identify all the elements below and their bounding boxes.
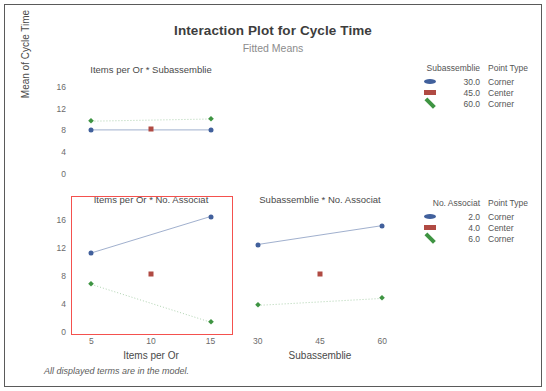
legend-point-type: Corner: [488, 212, 536, 222]
legend-header-no-associat: No. AssociatPoint Type: [424, 198, 536, 208]
y-axis-label: Mean of Cycle Time: [20, 0, 31, 124]
legend-marker-wrap: [424, 236, 436, 240]
x-tick-items-associat-10: 10: [136, 336, 166, 346]
panel-items-associat: Items per Or * No. Associat: [70, 192, 232, 332]
data-point: [89, 127, 94, 132]
legend-value: 30.0: [436, 77, 488, 87]
diamond-marker: [424, 233, 436, 245]
x-tick-items-associat-5: 5: [76, 336, 106, 346]
x-tick-subassemblie-associat-45: 45: [305, 336, 335, 346]
legend-marker-wrap: [424, 90, 436, 95]
legend-value: 6.0: [436, 234, 488, 244]
legend-header-factor-no-associat: No. Associat: [424, 198, 488, 208]
y-tick-items-associat-12: 12: [44, 243, 66, 253]
y-tick-items-associat-16: 16: [44, 215, 66, 225]
diamond-marker: [424, 98, 436, 110]
y-tick-items-subassemblie-0: 0: [44, 169, 66, 179]
plot-area-subassemblie-associat: [239, 206, 401, 332]
legend-point-type: Corner: [488, 77, 536, 87]
legend-item-no-associat-0[interactable]: 2.0Corner: [424, 211, 536, 222]
circle-marker: [424, 214, 436, 219]
y-tick-items-subassemblie-12: 12: [44, 104, 66, 114]
x-axis-label-items-associat: Items per Or: [71, 350, 231, 361]
legend-item-subassemblie-1[interactable]: 45.0Center: [424, 87, 536, 98]
chart-surface: Interaction Plot for Cycle Time Fitted M…: [6, 6, 540, 385]
y-tick-items-subassemblie-8: 8: [44, 125, 66, 135]
y-tick-items-associat-8: 8: [44, 271, 66, 281]
line-2.0: [91, 217, 210, 253]
window-frame: Interaction Plot for Cycle Time Fitted M…: [4, 4, 542, 387]
chart-title: Interaction Plot for Cycle Time: [6, 23, 540, 38]
data-point: [149, 127, 154, 132]
chart-footnote: All displayed terms are in the model.: [44, 366, 189, 376]
panel-subassemblie-associat: Subassemblie * No. Associat: [239, 192, 401, 332]
legend-item-subassemblie-0[interactable]: 30.0Corner: [424, 76, 536, 87]
legend-marker-wrap: [424, 214, 436, 219]
y-tick-items-associat-4: 4: [44, 299, 66, 309]
data-point: [208, 127, 213, 132]
square-marker: [424, 225, 436, 230]
panel-items-subassemblie: Items per Or * Subassemblie: [70, 62, 232, 174]
panel-title-items-subassemblie: Items per Or * Subassemblie: [70, 64, 232, 75]
series-lines-items-subassemblie: [70, 76, 232, 174]
legend-marker-wrap: [424, 79, 436, 84]
data-point: [318, 272, 323, 277]
legend-item-subassemblie-2[interactable]: 60.0Corner: [424, 98, 536, 109]
legend-header-factor-subassemblie: Subassemblie: [424, 63, 488, 73]
legend-marker-wrap: [424, 101, 436, 105]
legend-point-type: Center: [488, 88, 536, 98]
legend-header-point-type-subassemblie: Point Type: [488, 63, 528, 73]
y-tick-items-subassemblie-4: 4: [44, 147, 66, 157]
line-2.0: [258, 226, 383, 245]
y-tick-items-associat-0: 0: [44, 327, 66, 337]
legend-value: 4.0: [436, 223, 488, 233]
line-6.0: [258, 298, 383, 305]
legend-point-type: Center: [488, 223, 536, 233]
legend-no-associat: No. AssociatPoint Type2.0Corner4.0Center…: [424, 198, 536, 244]
legend-marker-wrap: [424, 225, 436, 230]
chart-subtitle: Fitted Means: [6, 42, 540, 54]
legend-item-no-associat-1[interactable]: 4.0Center: [424, 222, 536, 233]
series-lines-subassemblie-associat: [239, 206, 401, 332]
data-point: [89, 250, 94, 255]
legend-item-no-associat-2[interactable]: 6.0Corner: [424, 233, 536, 244]
line-60.0: [91, 119, 210, 121]
legend-value: 45.0: [436, 88, 488, 98]
legend-value: 60.0: [436, 99, 488, 109]
data-point: [208, 214, 213, 219]
legend-header-subassemblie: SubassembliePoint Type: [424, 63, 536, 73]
data-point: [380, 223, 385, 228]
circle-marker: [424, 79, 436, 84]
legend-point-type: Corner: [488, 234, 536, 244]
y-tick-items-subassemblie-16: 16: [44, 82, 66, 92]
line-6.0: [91, 284, 210, 322]
panel-title-subassemblie-associat: Subassemblie * No. Associat: [239, 194, 401, 205]
series-lines-items-associat: [70, 206, 232, 332]
legend-point-type: Corner: [488, 99, 536, 109]
x-tick-subassemblie-associat-30: 30: [243, 336, 273, 346]
plot-area-items-associat: [70, 206, 232, 332]
x-tick-items-associat-15: 15: [196, 336, 226, 346]
legend-subassemblie: SubassembliePoint Type30.0Corner45.0Cent…: [424, 63, 536, 109]
legend-value: 2.0: [436, 212, 488, 222]
panel-title-items-associat: Items per Or * No. Associat: [70, 194, 232, 205]
x-tick-subassemblie-associat-60: 60: [367, 336, 397, 346]
legend-header-point-type-no-associat: Point Type: [488, 198, 528, 208]
square-marker: [424, 90, 436, 95]
data-point: [255, 242, 260, 247]
chart-canvas: Interaction Plot for Cycle Time Fitted M…: [0, 0, 546, 391]
data-point: [149, 272, 154, 277]
x-axis-label-subassemblie-associat: Subassemblie: [240, 350, 400, 361]
plot-area-items-subassemblie: [70, 76, 232, 174]
